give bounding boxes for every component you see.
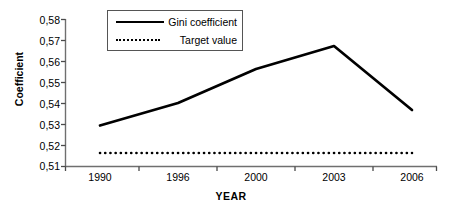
- plot-area: [0, 0, 462, 211]
- series-gini-coefficient: [100, 46, 412, 126]
- line-chart: Coefficient 0,58 0,57 0,56 0,55 0,54 0,5…: [0, 0, 462, 211]
